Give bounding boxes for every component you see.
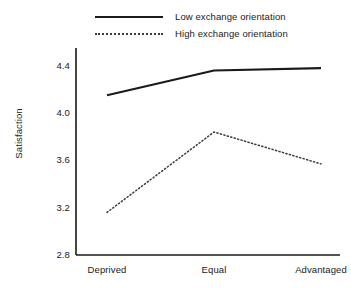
y-tick-label: 4.0	[42, 107, 70, 118]
series-line-low-exchange-orientation	[107, 68, 321, 95]
x-tick-label: Equal	[169, 264, 259, 275]
y-tick-label: 3.2	[42, 202, 70, 213]
y-tick-label: 4.4	[42, 60, 70, 71]
x-tick-label: Advantaged	[276, 264, 351, 275]
x-tick-label: Deprived	[62, 264, 152, 275]
y-axis-title: Satisfaction	[13, 94, 24, 174]
y-tick-label: 2.8	[42, 249, 70, 260]
series-line-high-exchange-orientation	[107, 132, 321, 212]
y-tick-label: 3.6	[42, 154, 70, 165]
